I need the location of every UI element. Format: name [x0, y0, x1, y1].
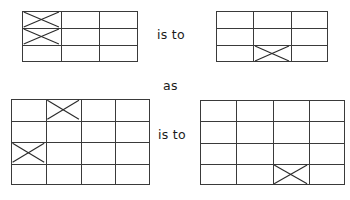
grid-svg — [200, 100, 345, 185]
grid-outer-border — [201, 101, 345, 185]
grid-svg — [11, 99, 150, 185]
connector-as: as — [163, 78, 178, 93]
grid-figure-top-left[interactable] — [22, 11, 138, 62]
grid-figure-bottom-left[interactable] — [11, 99, 150, 185]
grid-svg — [216, 11, 328, 62]
connector-is-to-bottom: is to — [158, 127, 186, 142]
grid-svg — [22, 11, 138, 62]
grid-figure-bottom-right[interactable] — [200, 100, 345, 185]
grid-figure-top-right[interactable] — [216, 11, 328, 62]
analogy-puzzle-canvas: is to as is to — [0, 0, 350, 200]
connector-is-to-top: is to — [157, 27, 185, 42]
